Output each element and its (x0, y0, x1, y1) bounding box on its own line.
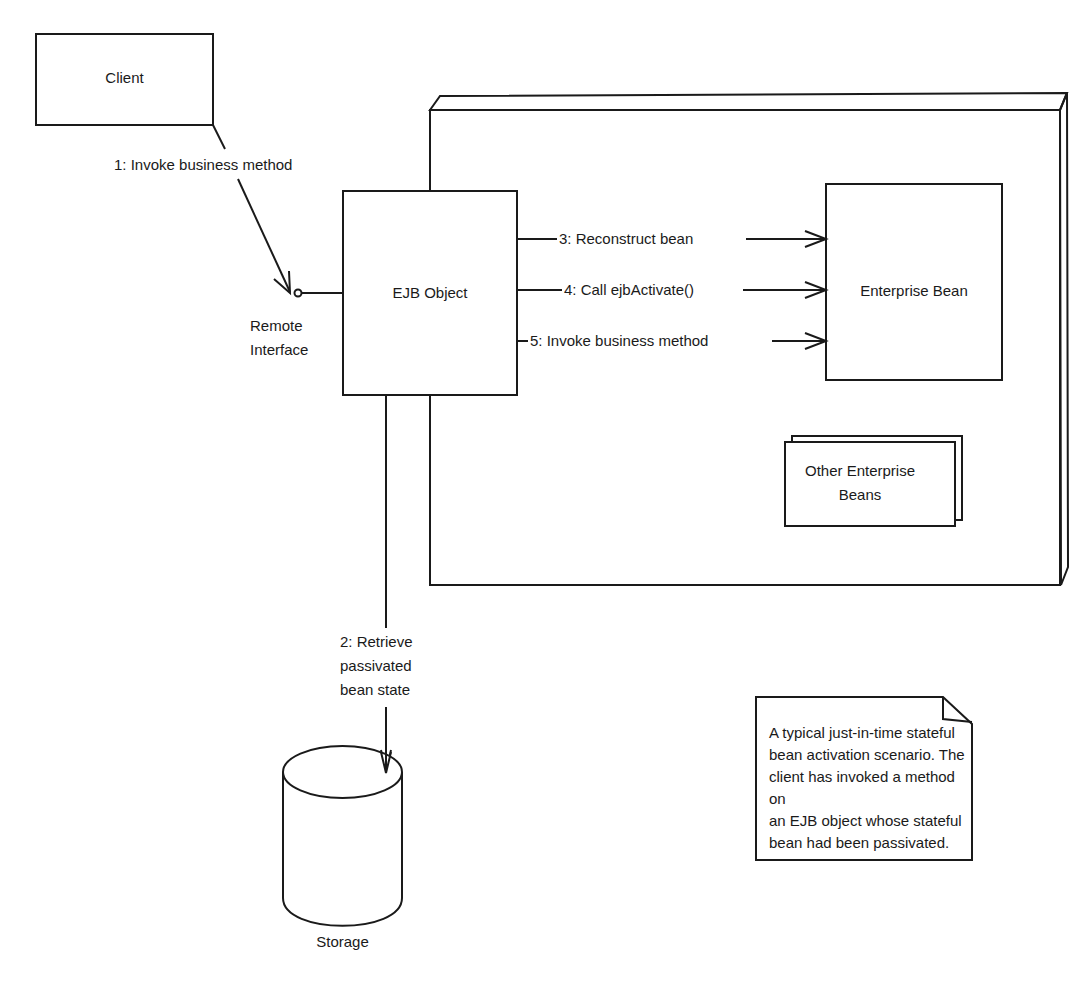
other-beans-box (785, 442, 955, 526)
remote-interface-icon (295, 290, 302, 297)
other-beans-label-1: Other Enterprise (785, 461, 935, 481)
remote-interface-label-1: Remote (250, 316, 303, 336)
enterprise-bean-label: Enterprise Bean (826, 281, 1002, 301)
message-2-label-2: passivated (340, 656, 412, 676)
note-text: A typical just-in-time stateful bean act… (769, 722, 969, 854)
message-5-label: 5: Invoke business method (530, 331, 708, 351)
message-2-label-1: 2: Retrieve (340, 632, 413, 652)
storage-cylinder-top (283, 746, 402, 798)
other-beans-label-2: Beans (785, 485, 935, 505)
message-1-label: 1: Invoke business method (114, 155, 292, 175)
message-1-line-top (213, 125, 225, 149)
message-3-label: 3: Reconstruct bean (559, 229, 693, 249)
message-2-label-3: bean state (340, 680, 410, 700)
remote-interface-label-2: Interface (250, 340, 308, 360)
client-label: Client (36, 68, 213, 88)
message-4-label: 4: Call ejbActivate() (564, 280, 694, 300)
ejb-object-label: EJB Object (343, 283, 517, 303)
storage-label: Storage (283, 932, 402, 952)
message-1-line (238, 179, 290, 292)
container-side-face (1060, 93, 1068, 585)
container-top-face (430, 93, 1067, 110)
